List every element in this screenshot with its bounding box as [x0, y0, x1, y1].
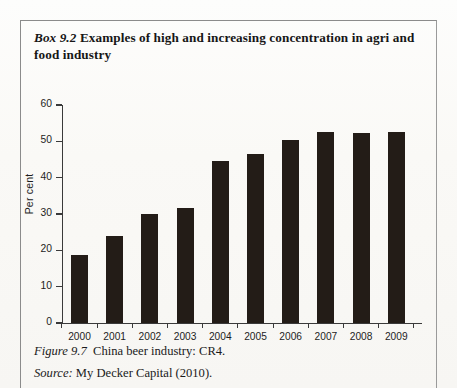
bar-2009	[388, 132, 405, 323]
bar-2003	[177, 208, 194, 323]
figure-number: Figure 9.7	[34, 344, 87, 358]
x-label-2002: 2002	[130, 331, 170, 342]
x-tick	[237, 323, 238, 328]
source-label: Source:	[34, 366, 73, 380]
source-caption: Source: My Decker Capital (2010).	[34, 366, 212, 381]
x-label-2009: 2009	[376, 331, 416, 342]
x-tick	[273, 323, 274, 328]
bar-2000	[71, 255, 88, 323]
y-tick-label: 40	[20, 171, 52, 182]
source-text: My Decker Capital (2010).	[76, 366, 212, 380]
y-tick-label: 60	[20, 98, 52, 109]
y-tick-label: 20	[20, 243, 52, 254]
bar-2002	[141, 214, 158, 323]
bar-2007	[317, 132, 334, 323]
y-tick-label: 30	[20, 207, 52, 218]
y-axis-title: Per cent	[23, 149, 35, 239]
box-title: Box 9.2 Examples of high and increasing …	[34, 29, 424, 64]
bar-chart: Per cent 0102030405060 20002001200220032…	[20, 98, 437, 333]
x-label-2008: 2008	[341, 331, 381, 342]
x-axis-line	[62, 323, 422, 324]
y-tick-label: 10	[20, 280, 52, 291]
figure-caption-text: China beer industry: CR4.	[93, 344, 225, 358]
box-title-text: Examples of high and increasing concentr…	[34, 30, 414, 62]
bar-2004	[212, 161, 229, 323]
x-tick	[61, 323, 62, 328]
y-tick	[56, 250, 62, 251]
bar-2005	[247, 154, 264, 323]
x-label-2007: 2007	[306, 331, 346, 342]
x-tick	[202, 323, 203, 328]
x-tick	[308, 323, 309, 328]
x-tick	[167, 323, 168, 328]
x-label-2001: 2001	[95, 331, 135, 342]
x-tick	[378, 323, 379, 328]
y-tick	[56, 213, 62, 214]
y-tick-label: 50	[20, 134, 52, 145]
x-tick	[413, 323, 414, 328]
y-axis-line	[62, 105, 63, 324]
bar-2006	[282, 140, 299, 323]
bar-2001	[106, 236, 123, 323]
y-tick	[56, 141, 62, 142]
x-label-2000: 2000	[60, 331, 100, 342]
x-label-2006: 2006	[271, 331, 311, 342]
y-tick	[56, 286, 62, 287]
x-tick	[132, 323, 133, 328]
bar-2008	[353, 133, 370, 323]
figure-caption: Figure 9.7 China beer industry: CR4.	[34, 344, 225, 359]
x-tick	[343, 323, 344, 328]
y-tick	[56, 177, 62, 178]
x-label-2003: 2003	[165, 331, 205, 342]
x-tick	[97, 323, 98, 328]
x-label-2005: 2005	[236, 331, 276, 342]
x-label-2004: 2004	[200, 331, 240, 342]
y-tick-label: 0	[20, 316, 52, 327]
box-number: Box 9.2	[34, 30, 76, 45]
y-tick	[56, 104, 62, 105]
